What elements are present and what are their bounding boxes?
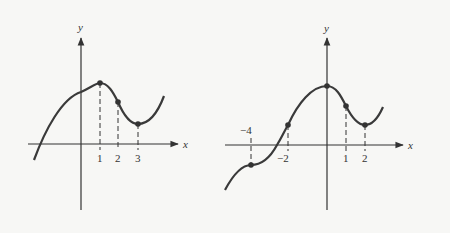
right-curve xyxy=(225,86,383,190)
left-x-label: x xyxy=(182,138,188,150)
left-y-label: y xyxy=(77,21,83,33)
right-tick-neg2: −2 xyxy=(277,152,289,164)
left-curve xyxy=(34,83,164,160)
right-point-neg4 xyxy=(248,162,254,168)
right-tick-neg4: −4 xyxy=(240,124,252,136)
right-point-min xyxy=(362,122,368,128)
right-x-label: x xyxy=(407,139,413,151)
right-point-max xyxy=(324,83,330,89)
left-graph: y x 1 2 3 xyxy=(28,21,188,210)
left-tick-3: 3 xyxy=(135,152,141,164)
left-tick-1: 1 xyxy=(97,152,103,164)
left-point-inflection xyxy=(115,99,121,105)
left-point-min xyxy=(135,121,141,127)
right-point-neg2 xyxy=(285,122,291,128)
right-tick-1: 1 xyxy=(343,152,349,164)
figure: y x 1 2 3 y x xyxy=(0,0,450,233)
right-y-label: y xyxy=(323,22,329,34)
right-point-1 xyxy=(343,103,349,109)
left-tick-2: 2 xyxy=(115,152,121,164)
right-graph: y x −4 −2 1 2 xyxy=(225,22,413,210)
right-tick-2: 2 xyxy=(362,152,368,164)
figure-svg: y x 1 2 3 y x xyxy=(0,0,450,233)
left-point-max xyxy=(97,80,103,86)
